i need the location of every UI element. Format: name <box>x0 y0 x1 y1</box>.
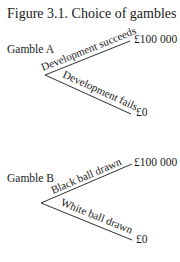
gamble-b-upper-branch-label: Black ball drawn <box>49 155 123 196</box>
gamble-a-upper-branch-label: Development succeeds <box>39 24 137 73</box>
gamble-a-lower-branch-label: Development fails <box>61 68 140 112</box>
decision-tree-diagram: Development succeeds Development fails B… <box>0 0 180 262</box>
gamble-b-lower-branch-label: White ball drawn <box>59 196 135 236</box>
